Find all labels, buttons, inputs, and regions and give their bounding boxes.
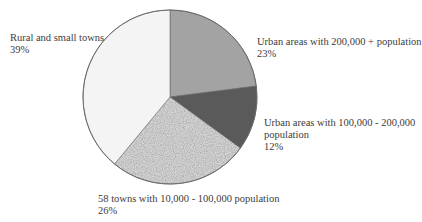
- label-urban-100k-text2: population: [264, 129, 415, 141]
- label-urban-200k-pct: 23%: [257, 48, 422, 60]
- label-towns-58-text: 58 towns with 10,000 - 100,000 populatio…: [98, 193, 279, 205]
- pie-slices: [83, 10, 257, 184]
- label-towns-58: 58 towns with 10,000 - 100,000 populatio…: [98, 193, 279, 217]
- label-urban-200k-text: Urban areas with 200,000 + population: [257, 36, 422, 48]
- label-towns-58-pct: 26%: [98, 205, 279, 217]
- slice-urban-200k: [170, 10, 256, 97]
- label-urban-100k-text: Urban areas with 100,000 - 200,000: [264, 117, 415, 129]
- label-rural-text: Rural and small towns: [10, 32, 104, 44]
- label-urban-100k-pct: 12%: [264, 141, 415, 153]
- label-urban-200k: Urban areas with 200,000 + population 23…: [257, 36, 422, 60]
- label-urban-100k: Urban areas with 100,000 - 200,000 popul…: [264, 117, 415, 153]
- label-rural-pct: 39%: [10, 44, 104, 56]
- label-rural: Rural and small towns 39%: [10, 32, 104, 56]
